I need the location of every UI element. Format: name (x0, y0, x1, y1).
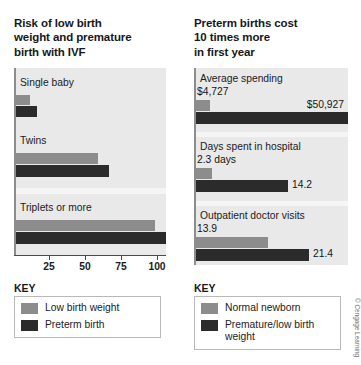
bar-group-average-spending: Average spending $4,727 $50,927 (196, 68, 348, 132)
key-box: Low birth weight Preterm birth (14, 296, 161, 338)
bar-low-birth-weight-single (16, 95, 30, 105)
bar-premature-days (196, 180, 288, 192)
left-chart-panel: Risk of low birth weight and premature b… (6, 0, 175, 365)
bar-preterm-birth-triplets (16, 232, 166, 244)
bar-preterm-birth-twins (16, 165, 109, 177)
axis-tick (85, 255, 86, 260)
axis-tick-label: 100 (148, 261, 165, 272)
key-item-label: Preterm birth (45, 319, 105, 331)
bar-low-birth-weight-triplets (16, 220, 155, 231)
bar-group-label: Days spent in hospital (200, 141, 301, 153)
bar-value-normal-newborn: 13.9 (197, 223, 217, 235)
bar-value-premature: 21.4 (313, 248, 333, 260)
bar-value-premature: 14.2 (292, 179, 312, 191)
axis-tick-label: 75 (115, 261, 126, 272)
bar-normal-newborn-days (196, 168, 212, 179)
bar-group-label: Triplets or more (20, 202, 92, 214)
key-item-low-birth-weight: Low birth weight (21, 302, 154, 314)
key-title: KEY (194, 282, 341, 294)
key-item-label: Premature/low birth weight (225, 319, 333, 343)
bar-group-triplets: Triplets or more (16, 194, 166, 255)
bar-group-label: Single baby (20, 77, 74, 89)
key-swatch-dark (21, 320, 38, 331)
bar-normal-newborn-spending (196, 100, 210, 111)
bar-group-label: Outpatient doctor visits (200, 210, 305, 222)
bar-premature-visits (196, 249, 309, 261)
bar-value-normal-newborn: 2.3 days (197, 154, 236, 166)
bar-group-label: Average spending (200, 73, 283, 85)
key-swatch-light (21, 303, 38, 314)
left-chart-title: Risk of low birth weight and premature b… (14, 16, 175, 59)
axis-line (14, 255, 166, 256)
key-swatch-dark (201, 320, 218, 331)
axis-tick (157, 255, 158, 260)
copyright-notice: © Cengage Learning (354, 298, 361, 357)
axis-tick (49, 255, 50, 260)
axis-tick-label: 25 (43, 261, 54, 272)
left-plot-area: Single baby Twins Triplets or more (14, 68, 166, 255)
key-item-label: Low birth weight (45, 302, 119, 314)
key-item-premature-low-birth-weight: Premature/low birth weight (201, 319, 334, 343)
bar-low-birth-weight-twins (16, 153, 98, 164)
key-swatch-light (201, 303, 218, 314)
bar-premature-spending (196, 112, 348, 124)
key-item-preterm-birth: Preterm birth (21, 319, 154, 331)
left-chart-key: KEY Low birth weight Preterm birth (14, 282, 161, 338)
right-chart-panel: Preterm births cost 10 times more in fir… (186, 0, 355, 365)
key-title: KEY (14, 282, 161, 294)
bar-group-outpatient-visits: Outpatient doctor visits 13.9 21.4 (196, 206, 348, 265)
bar-value-normal-newborn: $4,727 (197, 86, 229, 98)
key-box: Normal newborn Premature/low birth weigh… (194, 296, 341, 350)
bar-group-label: Twins (20, 135, 46, 147)
bar-preterm-birth-single (16, 106, 37, 117)
axis-tick (121, 255, 122, 260)
right-plot-area: Average spending $4,727 $50,927 Days spe… (194, 68, 348, 265)
right-chart-key: KEY Normal newborn Premature/low birth w… (194, 282, 341, 350)
bar-group-single-baby: Single baby (16, 68, 166, 125)
left-chart-x-axis: 25 50 75 100 (14, 255, 166, 277)
axis-tick-label: 50 (79, 261, 90, 272)
bar-group-days-in-hospital: Days spent in hospital 2.3 days 14.2 (196, 137, 348, 201)
key-item-normal-newborn: Normal newborn (201, 302, 334, 314)
key-item-label: Normal newborn (225, 302, 301, 314)
right-chart-title: Preterm births cost 10 times more in fir… (194, 16, 355, 59)
bar-normal-newborn-visits (196, 237, 268, 248)
bar-group-twins: Twins (16, 127, 166, 187)
bottom-edge-artifact (6, 355, 146, 365)
bar-value-premature: $50,927 (307, 99, 344, 111)
